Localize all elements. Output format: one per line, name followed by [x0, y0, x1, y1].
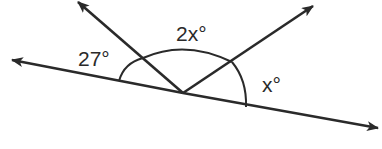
- arc-27-degrees: [119, 58, 143, 81]
- angle-label-27: 27°: [78, 47, 110, 70]
- upper-right-ray: [183, 6, 313, 93]
- angle-diagram: 27° 2x° x°: [0, 0, 382, 149]
- arc-x-degrees: [232, 62, 246, 107]
- right-line-ray: [183, 93, 378, 128]
- arc-2x-degrees: [143, 49, 232, 62]
- angle-label-2x: 2x°: [176, 22, 207, 45]
- angle-label-x: x°: [262, 73, 281, 96]
